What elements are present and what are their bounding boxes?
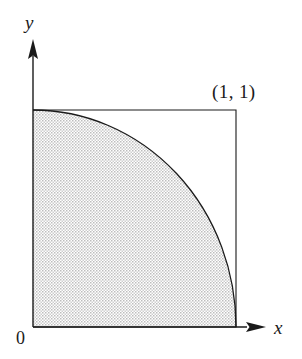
y-axis-label: y <box>25 13 33 32</box>
origin-label: 0 <box>16 329 25 347</box>
quarter-circle-figure: y x 0 (1, 1) <box>0 0 302 359</box>
x-axis-label: x <box>274 318 282 337</box>
shaded-quarter-disk <box>33 110 236 327</box>
arrow-right-icon <box>246 322 266 332</box>
figure-canvas <box>0 0 302 359</box>
corner-point-label: (1, 1) <box>212 82 256 101</box>
